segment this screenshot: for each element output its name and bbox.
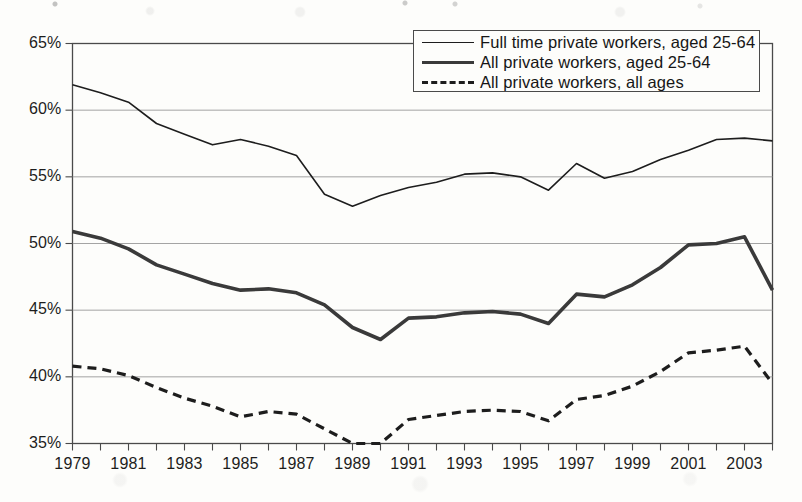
x-axis-tick-label: 1979 <box>43 455 103 473</box>
legend-label: All private workers, aged 25-64 <box>480 53 711 72</box>
x-axis-tick-label: 1981 <box>99 455 159 473</box>
gridlines <box>73 110 773 377</box>
legend-swatch-dashed-icon <box>422 81 474 84</box>
x-axis-tick-label: 1987 <box>267 455 327 473</box>
y-axis-tick-label: 55% <box>2 167 62 185</box>
chart-page: 35%40%45%50%55%60%65% 197919811983198519… <box>0 0 802 502</box>
x-axis-tick-label: 1995 <box>491 455 551 473</box>
series-line-2 <box>73 346 773 443</box>
y-axis-tick-label: 50% <box>2 234 62 252</box>
x-axis-tick-label: 1997 <box>547 455 607 473</box>
y-axis-ticks <box>66 44 73 444</box>
chart-legend: Full time private workers, aged 25-64 Al… <box>413 30 760 92</box>
y-axis-tick-label: 40% <box>2 367 62 385</box>
series-line-1 <box>73 232 773 340</box>
legend-item-all-private-all-ages: All private workers, all ages <box>414 72 761 92</box>
legend-label: Full time private workers, aged 25-64 <box>480 33 755 52</box>
x-axis-tick-label: 1993 <box>435 455 495 473</box>
x-axis-tick-label: 2003 <box>715 455 775 473</box>
data-series-layer <box>73 85 773 444</box>
legend-swatch-solid-thin-icon <box>422 42 474 43</box>
y-axis-tick-label: 35% <box>2 434 62 452</box>
x-axis-tick-label: 1985 <box>211 455 271 473</box>
x-axis-tick-label: 1989 <box>323 455 383 473</box>
legend-label: All private workers, all ages <box>480 73 684 92</box>
x-axis-tick-label: 1999 <box>603 455 663 473</box>
x-axis-tick-label: 1991 <box>379 455 439 473</box>
x-axis-ticks <box>73 444 773 451</box>
x-axis-tick-label: 1983 <box>155 455 215 473</box>
y-axis-tick-label: 65% <box>2 34 62 52</box>
legend-item-full-time: Full time private workers, aged 25-64 <box>414 32 761 52</box>
y-axis-tick-label: 60% <box>2 100 62 118</box>
y-axis-tick-label: 45% <box>2 300 62 318</box>
x-axis-tick-label: 2001 <box>659 455 719 473</box>
series-line-0 <box>73 85 773 206</box>
legend-swatch-solid-thick-icon <box>422 61 474 64</box>
legend-item-all-private-25-64: All private workers, aged 25-64 <box>414 52 761 72</box>
